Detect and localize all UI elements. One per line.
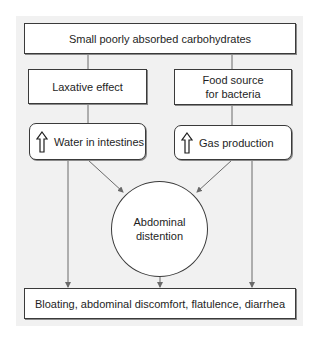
- gas-production-label: Gas production: [199, 136, 274, 150]
- water-in-intestines-box: Water in intestines: [29, 123, 146, 160]
- laxative-effect-label: Laxative effect: [52, 80, 123, 94]
- water-in-intestines-label: Water in intestines: [54, 135, 144, 149]
- symptoms-box: Bloating, abdominal discomfort, flatulen…: [24, 288, 296, 319]
- up-arrow-icon: [181, 132, 193, 154]
- top-box-label: Small poorly absorbed carbohydrates: [69, 32, 251, 46]
- laxative-effect-box: Laxative effect: [28, 69, 147, 104]
- top-box-carbohydrates: Small poorly absorbed carbohydrates: [24, 23, 296, 54]
- food-source-box: Food source for bacteria: [174, 69, 292, 105]
- up-arrow-icon: [36, 131, 48, 153]
- abdominal-distention-label: Abdominal distention: [128, 215, 191, 243]
- symptoms-label: Bloating, abdominal discomfort, flatulen…: [35, 297, 285, 311]
- abdominal-distention-circle: Abdominal distention: [111, 181, 208, 277]
- food-source-label: Food source for bacteria: [195, 73, 271, 101]
- gas-production-box: Gas production: [174, 125, 292, 160]
